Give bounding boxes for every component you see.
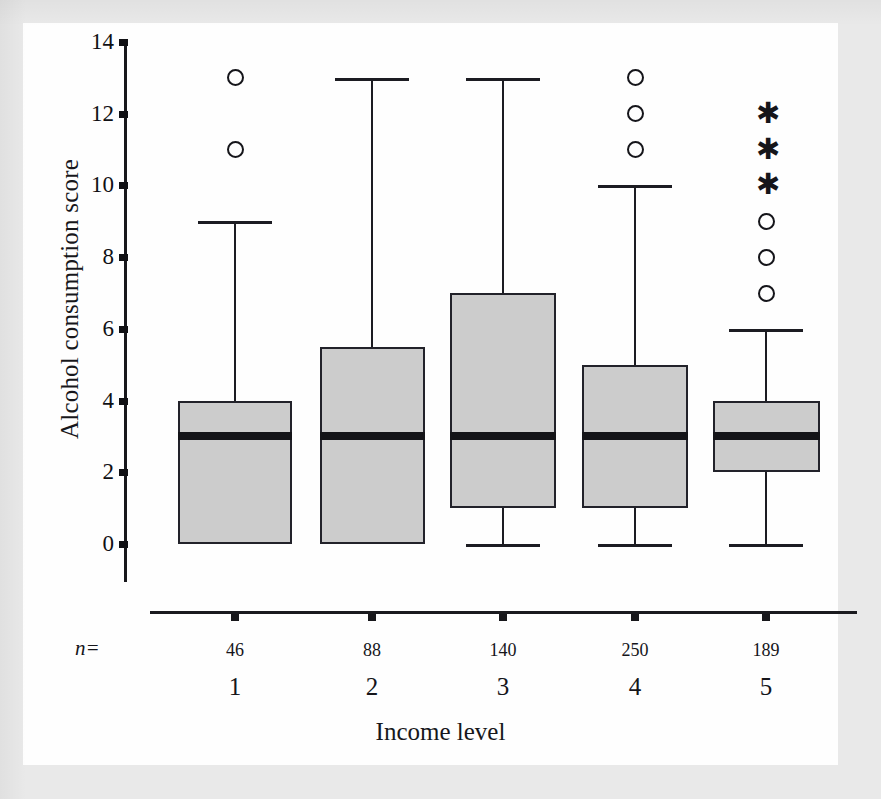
lower-whisker-cap — [466, 544, 540, 547]
y-tick-label: 10 — [70, 173, 114, 196]
x-tick-mark — [762, 614, 770, 621]
sample-size-value: 250 — [595, 640, 675, 661]
lower-whisker-line — [634, 508, 636, 544]
outlier-marker — [627, 141, 644, 158]
category-label: 2 — [332, 673, 412, 701]
y-tick-mark — [119, 469, 128, 476]
y-tick-label: 4 — [70, 389, 114, 412]
extreme-marker: ✱ — [756, 105, 776, 122]
outlier-marker — [758, 285, 775, 302]
upper-whisker-cap — [598, 185, 672, 188]
y-axis-line — [124, 40, 127, 582]
outlier-marker — [227, 69, 244, 86]
median-line — [178, 432, 292, 440]
figure-root: Alcohol consumption score Income level 0… — [0, 0, 881, 799]
y-tick-mark — [119, 254, 128, 261]
sample-size-value: 189 — [726, 640, 806, 661]
x-tick-mark — [368, 614, 376, 621]
upper-whisker-line — [634, 185, 636, 364]
median-line — [450, 432, 556, 440]
n-prefix-label: n= — [75, 636, 100, 661]
y-tick-mark — [119, 111, 128, 118]
y-tick-mark — [119, 398, 128, 405]
y-tick-label: 8 — [70, 245, 114, 268]
x-tick-mark — [499, 614, 507, 621]
y-tick-label: 14 — [70, 30, 114, 53]
median-line — [582, 432, 688, 440]
x-tick-mark — [231, 614, 239, 621]
outlier-marker — [758, 249, 775, 266]
lower-whisker-cap — [729, 544, 803, 547]
upper-whisker-line — [502, 78, 504, 293]
median-line — [320, 432, 425, 440]
box-iqr — [178, 401, 292, 544]
upper-whisker-line — [371, 78, 373, 347]
y-tick-label: 2 — [70, 460, 114, 483]
upper-whisker-cap — [466, 78, 540, 81]
upper-whisker-cap — [198, 221, 272, 224]
outlier-marker — [627, 105, 644, 122]
box-iqr — [450, 293, 556, 508]
sample-size-value: 140 — [463, 640, 543, 661]
box-iqr — [320, 347, 425, 544]
x-tick-mark — [631, 614, 639, 621]
sample-size-value: 46 — [195, 640, 275, 661]
y-tick-label: 0 — [70, 532, 114, 555]
lower-whisker-line — [765, 472, 767, 544]
y-tick-mark — [119, 182, 128, 189]
upper-whisker-line — [234, 221, 236, 400]
category-label: 5 — [726, 673, 806, 701]
extreme-marker: ✱ — [756, 141, 776, 158]
y-tick-label: 12 — [70, 102, 114, 125]
outlier-marker — [758, 213, 775, 230]
upper-whisker-line — [765, 329, 767, 401]
extreme-marker: ✱ — [756, 176, 776, 193]
category-label: 3 — [463, 673, 543, 701]
y-tick-mark — [119, 326, 128, 333]
upper-whisker-cap — [729, 329, 803, 332]
category-label: 4 — [595, 673, 675, 701]
outlier-marker — [227, 141, 244, 158]
median-line — [713, 432, 820, 440]
outlier-marker — [627, 69, 644, 86]
y-tick-mark — [119, 541, 128, 548]
y-tick-mark — [119, 39, 128, 46]
y-tick-label: 6 — [70, 317, 114, 340]
lower-whisker-line — [502, 508, 504, 544]
upper-whisker-cap — [335, 78, 409, 81]
category-label: 1 — [195, 673, 275, 701]
sample-size-value: 88 — [332, 640, 412, 661]
lower-whisker-cap — [598, 544, 672, 547]
